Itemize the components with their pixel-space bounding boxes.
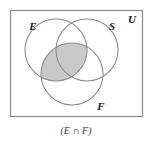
venn-diagram-screen: E S F U (E ∩ F)	[0, 0, 153, 144]
set-label-e: E	[28, 20, 36, 32]
set-label-s: S	[109, 20, 115, 32]
venn-diagram-figure: E S F U (E ∩ F)	[0, 0, 153, 144]
universal-set-label: U	[128, 13, 137, 25]
set-label-f: F	[96, 100, 105, 112]
figure-caption: (E ∩ F)	[60, 125, 92, 137]
venn-diagram-svg: E S F U (E ∩ F)	[0, 0, 153, 144]
